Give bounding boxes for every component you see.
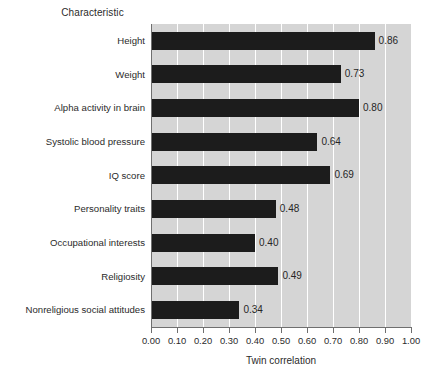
bar-row: 0.69 — [151, 159, 411, 193]
bar-value-label: 0.49 — [278, 267, 301, 285]
plot-area: 0.860.730.800.640.690.480.400.490.34 — [151, 24, 411, 327]
bar-value-label: 0.73 — [341, 65, 364, 83]
bar-row: 0.86 — [151, 24, 411, 58]
bar-value-label: 0.69 — [330, 166, 353, 184]
bar-row: 0.73 — [151, 58, 411, 92]
tick-mark — [151, 328, 152, 333]
y-axis-line — [151, 24, 152, 328]
bar-row: 0.49 — [151, 260, 411, 294]
bar — [151, 234, 255, 252]
category-label: Weight — [0, 66, 145, 84]
category-label: Systolic blood pressure — [0, 133, 145, 151]
category-label: Personality traits — [0, 200, 145, 218]
tick-mark — [281, 328, 282, 333]
bar-row: 0.80 — [151, 91, 411, 125]
category-label: Alpha activity in brain — [0, 99, 145, 117]
bar-value-label: 0.40 — [255, 234, 278, 252]
bar — [151, 133, 317, 151]
category-label: IQ score — [0, 167, 145, 185]
tick-mark — [333, 328, 334, 333]
tick-mark — [385, 328, 386, 333]
bar-value-label: 0.64 — [317, 133, 340, 151]
bar — [151, 200, 276, 218]
bar-row: 0.48 — [151, 192, 411, 226]
gridline — [411, 24, 412, 327]
tick-label: 1.00 — [396, 335, 426, 346]
tick-mark — [229, 328, 230, 333]
bar-row: 0.40 — [151, 226, 411, 260]
bar-row: 0.34 — [151, 293, 411, 327]
tick-mark — [203, 328, 204, 333]
tick-mark — [411, 328, 412, 333]
bar — [151, 166, 330, 184]
bar-value-label: 0.86 — [375, 32, 398, 50]
value-axis-title: Twin correlation — [151, 355, 411, 366]
tick-mark — [359, 328, 360, 333]
category-label: Religiosity — [0, 268, 145, 286]
bar-value-label: 0.34 — [239, 301, 262, 319]
bar-value-label: 0.80 — [359, 99, 382, 117]
bar — [151, 301, 239, 319]
bar-row: 0.64 — [151, 125, 411, 159]
bar-value-label: 0.48 — [276, 200, 299, 218]
category-label: Occupational interests — [0, 234, 145, 252]
tick-mark — [255, 328, 256, 333]
twin-correlation-bar-chart: Characteristic 0.860.730.800.640.690.480… — [0, 0, 429, 381]
tick-mark — [177, 328, 178, 333]
bar — [151, 99, 359, 117]
tick-mark — [307, 328, 308, 333]
category-label: Height — [0, 32, 145, 50]
bar — [151, 267, 278, 285]
category-axis-title: Characteristic — [0, 7, 185, 18]
bar — [151, 65, 341, 83]
category-label: Nonreligious social attitudes — [0, 301, 145, 319]
bar — [151, 32, 375, 50]
